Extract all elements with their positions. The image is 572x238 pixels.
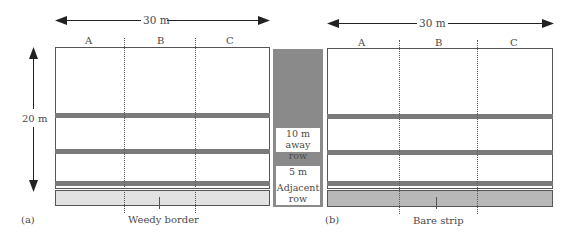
weedy-border-strip [55,190,270,206]
legend-item-line1: 10 m [276,128,320,139]
crop-row-adjacent-b [327,181,553,186]
field-plot-a [55,47,270,189]
arrow-right-icon [542,18,554,29]
panel-label-b: (b) [325,214,339,225]
divider-ab-a [124,38,125,213]
legend-item-line2: away row [276,139,320,161]
crop-row-10m-b [327,114,553,119]
crop-row-5m-b [327,150,553,155]
divider-bc-a [195,38,196,213]
panel-label-a: (a) [21,214,35,225]
legend-item-line1: 5 m [276,166,320,177]
arrow-down-icon [28,180,39,192]
crop-row-5m-a [55,149,270,154]
border-label-a: Weedy border [128,214,199,225]
border-label-b: Bare strip [413,215,464,226]
legend-item-line2: row [276,193,320,204]
column-label-c: C [226,35,234,46]
column-label-c: C [510,37,518,48]
arrow-left-icon [327,18,339,29]
legend-item-line1: Adjacent [276,182,320,193]
arrow-left-icon [55,15,67,26]
arrow-right-icon [258,15,270,26]
column-label-a: A [358,37,365,48]
crop-row-adjacent-a [55,181,270,186]
crop-row-10m-a [55,113,270,118]
legend-item-adjacent: Adjacent row [276,182,320,205]
legend-item-10m: 10 m away row [276,128,320,152]
divider-bc-b [477,40,478,214]
divider-ab-b [399,40,400,214]
height-label: 20 m [22,113,47,124]
width-label-b: 30 m [419,17,446,29]
column-label-b: B [157,35,164,46]
column-label-b: B [435,37,442,48]
column-label-a: A [85,35,92,46]
width-label-a: 30 m [143,14,170,26]
bare-strip [327,190,553,207]
